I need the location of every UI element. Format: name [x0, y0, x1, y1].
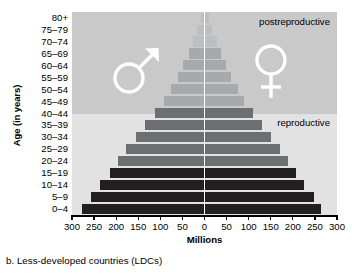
x-tick-mark [160, 215, 161, 220]
bar-female [205, 120, 263, 130]
age-tick-label: 80+ [14, 12, 68, 23]
x-axis-title: Millions [72, 234, 337, 245]
bar-female [205, 192, 314, 202]
population-pyramid-figure: Age (in years) 80+75–7970–7465–6960–6455… [0, 0, 357, 274]
x-tick-mark [314, 215, 315, 220]
age-tick-label: 60–64 [14, 60, 68, 71]
bar-female [205, 25, 213, 35]
bar-female [205, 144, 281, 154]
age-tick-label: 30–34 [14, 131, 68, 142]
annotation-reproductive: reproductive [277, 117, 330, 128]
age-tick-label: 45–49 [14, 96, 68, 107]
x-tick-mark [292, 215, 293, 220]
age-tick-label: 0–4 [14, 203, 68, 214]
bar-male [136, 132, 205, 142]
bar-male [193, 36, 204, 46]
bar-female [205, 108, 254, 118]
x-tick-mark [182, 215, 183, 220]
age-tick-labels: 80+75–7970–7465–6960–6455–5950–5445–4940… [14, 12, 68, 215]
bar-female [205, 60, 227, 70]
x-tick-mark [204, 215, 205, 220]
x-axis-line [72, 215, 337, 217]
bar-female [205, 72, 232, 82]
bar-male [183, 60, 204, 70]
age-tick-label: 65–69 [14, 48, 68, 59]
x-tick-labels: 30025020015010050050100150200250300 [52, 221, 357, 235]
bar-male [126, 144, 205, 154]
age-tick-label: 5–9 [14, 191, 68, 202]
age-tick-label: 75–79 [14, 24, 68, 35]
age-tick-label: 70–74 [14, 36, 68, 47]
x-tick-mark [71, 215, 72, 220]
x-tick-mark [248, 215, 249, 220]
bar-male [155, 108, 205, 118]
bar-female [205, 48, 222, 58]
bar-female [205, 36, 217, 46]
age-tick-label: 40–44 [14, 108, 68, 119]
age-tick-label: 10–14 [14, 179, 68, 190]
bar-male [164, 96, 205, 106]
annotation-postreproductive: postreproductive [259, 16, 330, 27]
x-tick-mark [226, 215, 227, 220]
age-tick-label: 25–29 [14, 143, 68, 154]
bar-male [178, 72, 205, 82]
plot-area: postreproductive reproductive [72, 12, 337, 215]
age-tick-label: 50–54 [14, 84, 68, 95]
age-tick-label: 55–59 [14, 72, 68, 83]
male-symbol-icon [108, 42, 164, 98]
bar-female [205, 13, 210, 23]
bar-male [118, 156, 205, 166]
x-tick-mark [138, 215, 139, 220]
bar-female [205, 132, 272, 142]
bar-female [205, 84, 238, 94]
bar-male [91, 192, 205, 202]
bar-female [205, 168, 296, 178]
x-tick-label: 300 [317, 221, 357, 232]
bar-female [205, 156, 289, 166]
figure-caption: b. Less-developed countries (LDCs) [6, 255, 162, 266]
bar-female [205, 96, 245, 106]
bar-male [110, 168, 205, 178]
age-tick-label: 20–24 [14, 155, 68, 166]
x-tick-mark [270, 215, 271, 220]
bar-male [171, 84, 205, 94]
bar-female [205, 204, 322, 214]
age-tick-label: 15–19 [14, 167, 68, 178]
bar-female [205, 180, 305, 190]
female-symbol-icon [248, 40, 294, 102]
center-axis-line [204, 12, 205, 215]
x-tick-mark [93, 215, 94, 220]
bar-male [82, 204, 204, 214]
x-tick-mark [116, 215, 117, 220]
x-tick-mark [336, 215, 337, 220]
bar-male [100, 180, 204, 190]
bar-male [189, 48, 205, 58]
bar-male [145, 120, 205, 130]
age-tick-label: 35–39 [14, 119, 68, 130]
